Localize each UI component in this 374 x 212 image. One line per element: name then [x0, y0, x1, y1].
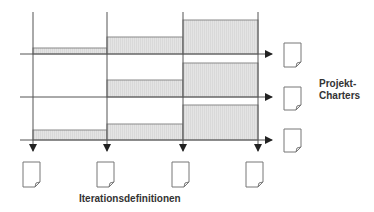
document-icon: [246, 162, 263, 187]
box-p3-i1: [33, 130, 107, 140]
project-charter-docs: [284, 43, 301, 152]
allocation-boxes: [33, 20, 258, 140]
iteration-definition-docs: [23, 162, 263, 187]
box-p3-i3: [183, 105, 258, 140]
document-icon: [284, 43, 301, 67]
box-p1-i1: [33, 48, 107, 54]
iteration-definitions-label: Iterationsdefinitionen: [79, 193, 199, 205]
project-charters-label-line1: Projekt-: [319, 78, 374, 90]
box-p2-i3: [183, 63, 258, 97]
box-p3-i2: [107, 124, 183, 140]
iteration-diagram: [0, 0, 374, 212]
document-icon: [172, 162, 189, 187]
document-icon: [97, 162, 114, 187]
project-charters-label: Projekt- Charters: [319, 78, 374, 102]
project-charters-label-line2: Charters: [319, 90, 374, 102]
box-p2-i2: [107, 80, 183, 97]
document-icon: [23, 162, 40, 187]
box-p1-i3: [183, 20, 258, 54]
document-icon: [284, 129, 301, 152]
box-p1-i2: [107, 37, 183, 54]
document-icon: [284, 87, 301, 110]
